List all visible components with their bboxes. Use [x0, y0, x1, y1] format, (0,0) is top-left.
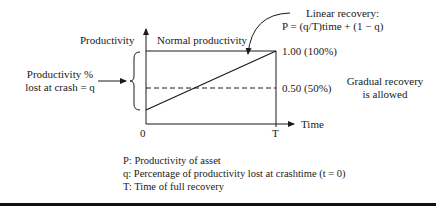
loss-brace — [130, 52, 140, 110]
left-annotation-line-1: Productivity % — [20, 68, 100, 81]
curve-annotation-line-2: P = (q/T)time + (1 − q) — [282, 20, 383, 33]
right-note-line-1: Gradual recovery — [340, 75, 430, 88]
right-note-line-2: is allowed — [340, 88, 430, 101]
left-annotation-line-2: lost at crash = q — [20, 81, 100, 94]
bottom-rule — [0, 203, 436, 206]
half-level-label: 0.50 (50%) — [282, 82, 332, 95]
legend-item-p: P: Productivity of asset — [123, 154, 346, 167]
y-axis-label: Productivity — [80, 34, 134, 47]
left-annotation: Productivity % lost at crash = q — [20, 68, 100, 94]
origin-label: 0 — [140, 127, 146, 140]
time-axis-label: Time — [301, 118, 324, 131]
legend-item-t: T: Time of full recovery — [123, 180, 346, 193]
right-note: Gradual recovery is allowed — [340, 75, 430, 101]
legend-item-q: q: Percentage of productivity lost at cr… — [123, 167, 346, 180]
curve-annotation-line-1: Linear recovery: — [298, 7, 383, 20]
normal-productivity-label: Normal productivity — [157, 34, 247, 47]
t-label: T — [272, 127, 279, 140]
linear-recovery-line — [146, 51, 276, 110]
curve-annotation: Linear recovery: P = (q/T)time + (1 − q) — [298, 7, 383, 33]
full-level-label: 1.00 (100%) — [282, 45, 337, 58]
legend: P: Productivity of asset q: Percentage o… — [123, 154, 346, 193]
